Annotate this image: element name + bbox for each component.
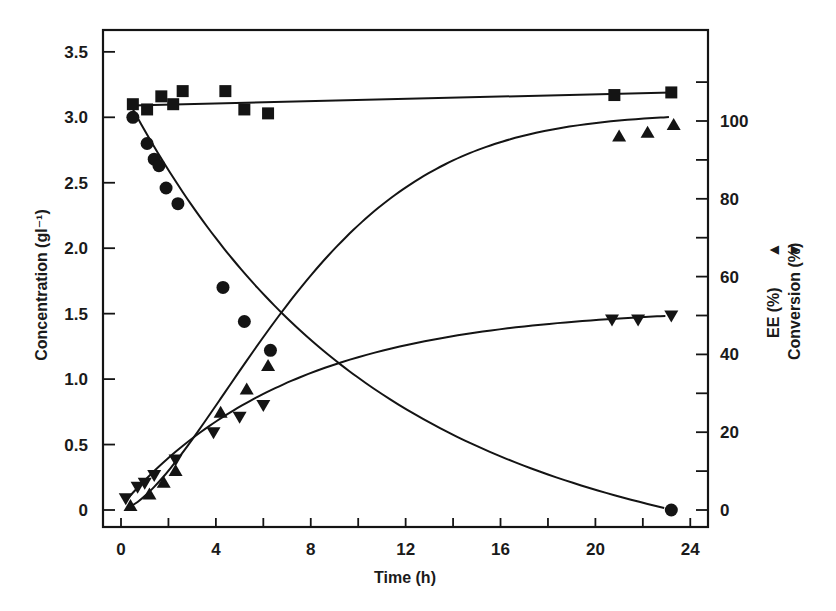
- triangle-down-marker: [256, 400, 270, 412]
- triangle-down-marker: [605, 314, 619, 326]
- y-tick-label: 1.0: [64, 370, 88, 389]
- y-right-tick-label: 40: [720, 345, 739, 364]
- circle-marker: [152, 159, 165, 172]
- circle-marker: [160, 181, 173, 194]
- square-marker: [219, 85, 231, 97]
- chart-figure: 04812162024 00.51.01.52.02.53.03.5 02040…: [0, 0, 836, 611]
- y-axis-title: Concentration (gl⁻¹): [33, 209, 50, 361]
- fit-curve-conversion: [126, 316, 666, 501]
- square-marker: [155, 90, 167, 102]
- fit-curve-ee: [129, 117, 669, 507]
- square-marker: [177, 85, 189, 97]
- y-right-title-ee: EE (%): [765, 287, 782, 338]
- y-tick-label: 3.5: [64, 43, 88, 62]
- triangle-down-marker: [664, 311, 678, 323]
- triangle-up-marker: [667, 118, 681, 130]
- square-marker: [665, 86, 677, 98]
- square-marker: [238, 103, 250, 115]
- circle-marker: [141, 137, 154, 150]
- circle-marker: [665, 504, 678, 517]
- y-tick-label: 0: [79, 501, 88, 520]
- y-right-tick-label: 80: [720, 190, 739, 209]
- square-marker: [608, 89, 620, 101]
- y-tick-label: 3.0: [64, 108, 88, 127]
- square-marker: [141, 103, 153, 115]
- y-tick-label: 0.5: [64, 436, 88, 455]
- square-marker: [262, 107, 274, 119]
- square-marker: [127, 98, 139, 110]
- y-axis-left: 00.51.01.52.02.53.03.5: [64, 43, 115, 520]
- y-right-tick-label: 100: [720, 112, 748, 131]
- y-tick-label: 1.5: [64, 305, 88, 324]
- triangle-up-marker: [641, 126, 655, 138]
- x-axis-title: Time (h): [374, 569, 436, 586]
- fit-line-squares: [133, 92, 671, 105]
- fit-curve-circles: [133, 109, 664, 508]
- square-marker: [167, 98, 179, 110]
- triangle-down-marker: [233, 412, 247, 424]
- triangle-up-marker: [240, 382, 254, 394]
- x-tick-label: 20: [586, 540, 605, 559]
- circle-marker: [238, 315, 251, 328]
- x-tick-label: 8: [306, 540, 315, 559]
- y-right-tick-label: 0: [720, 501, 729, 520]
- y-tick-label: 2.0: [64, 239, 88, 258]
- triangle-down-marker: [169, 454, 183, 466]
- x-axis: 04812162024: [116, 518, 700, 559]
- x-tick-label: 16: [491, 540, 510, 559]
- conversion-marker-icon: ▼: [786, 242, 803, 258]
- x-tick-label: 12: [396, 540, 415, 559]
- triangle-down-marker: [631, 314, 645, 326]
- circle-marker: [264, 344, 277, 357]
- ee-marker-icon: ▲: [765, 242, 782, 258]
- circle-marker: [126, 111, 139, 124]
- triangle-up-marker: [612, 130, 626, 142]
- triangle-up-marker: [261, 359, 275, 371]
- x-tick-label: 0: [116, 540, 125, 559]
- x-tick-label: 4: [211, 540, 221, 559]
- x-tick-label: 24: [681, 540, 700, 559]
- y-right-title-conversion: Conversion (%): [786, 243, 803, 360]
- fit-curves: [126, 92, 672, 508]
- y-tick-label: 2.5: [64, 174, 88, 193]
- y-right-tick-label: 20: [720, 423, 739, 442]
- y-right-tick-label: 60: [720, 268, 739, 287]
- y-axis-right: 020406080100: [696, 82, 748, 520]
- data-points: [119, 85, 681, 516]
- circle-marker: [171, 197, 184, 210]
- triangle-down-marker: [207, 427, 221, 439]
- circle-marker: [216, 281, 229, 294]
